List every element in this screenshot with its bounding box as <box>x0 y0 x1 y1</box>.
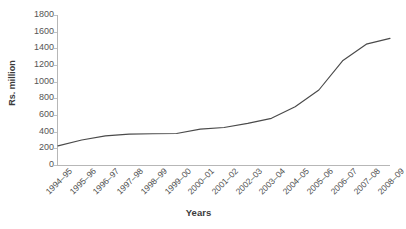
x-axis-tick-labels: 1994–951995–961996–971997–981998–991999–… <box>0 166 397 211</box>
data-series-line <box>58 15 390 165</box>
x-axis-title: Years <box>0 207 397 218</box>
